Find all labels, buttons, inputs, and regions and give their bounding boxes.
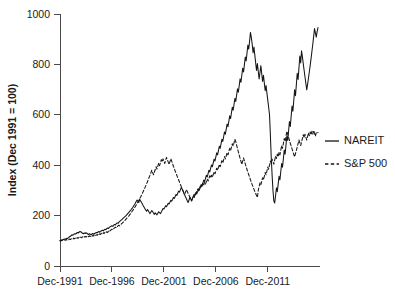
y-tick-label: 0	[44, 260, 50, 272]
x-tick-label: Dec-2001	[141, 275, 187, 287]
x-tick-label: Dec-1991	[37, 275, 83, 287]
x-axis-ticks: Dec-1991Dec-1996Dec-2001Dec-2006Dec-2011	[37, 266, 290, 287]
y-tick-label: 400	[32, 159, 50, 171]
y-tick-label: 200	[32, 209, 50, 221]
x-tick-label: Dec-2011	[245, 275, 290, 287]
index-performance-line-chart: Index (Dec 1991 = 100) 02004006008001000…	[0, 0, 395, 301]
series-line-nareit	[60, 28, 318, 241]
data-series-group	[60, 28, 318, 241]
chart-figure: Index (Dec 1991 = 100) 02004006008001000…	[0, 0, 395, 301]
legend-label-nareit: NAREIT	[344, 134, 385, 146]
x-tick-label: Dec-2006	[193, 275, 239, 287]
chart-legend: NAREITS&P 500	[325, 134, 387, 169]
y-tick-label: 1000	[27, 8, 51, 20]
y-tick-label: 600	[32, 108, 50, 120]
y-axis-title: Index (Dec 1991 = 100)	[6, 84, 18, 196]
legend-label-s-p-500: S&P 500	[344, 157, 387, 169]
series-line-s-p-500	[60, 130, 318, 240]
y-tick-label: 800	[32, 58, 50, 70]
x-tick-label: Dec-1996	[89, 275, 135, 287]
y-axis-ticks: 02004006008001000	[27, 8, 60, 272]
